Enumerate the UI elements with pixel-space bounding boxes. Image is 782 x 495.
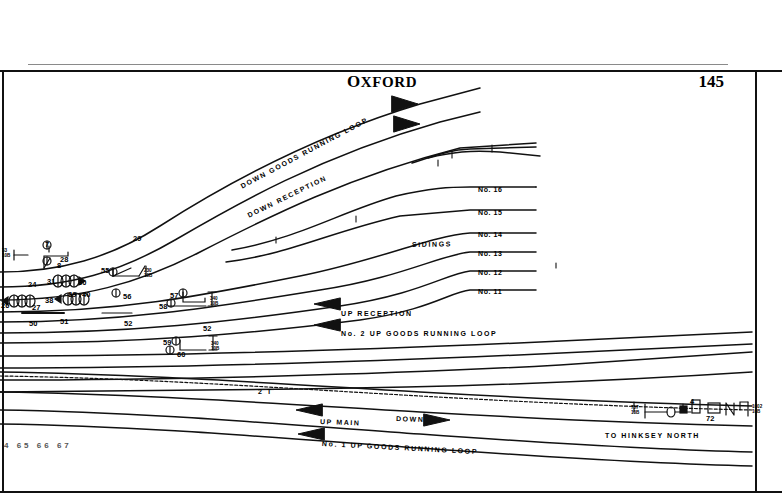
mileage-marker: 34010B bbox=[211, 341, 219, 351]
track-label-two-t: 2 T bbox=[258, 388, 273, 395]
mileage-marker-bottom: 10B bbox=[211, 346, 219, 351]
siding-number: No. 16 bbox=[478, 186, 503, 193]
point-number: 55 bbox=[101, 266, 109, 275]
point-number: 28 bbox=[60, 255, 68, 264]
point-number: 52 bbox=[124, 319, 132, 328]
siding-number: No. 12 bbox=[478, 269, 503, 276]
mileage-marker: 75710B bbox=[631, 405, 639, 415]
point-number: 72 bbox=[706, 414, 714, 423]
siding-number: No. 11 bbox=[478, 288, 502, 295]
mileage-marker-bottom: 10B bbox=[210, 301, 218, 306]
bottom-numbers: 4 65 66 67 bbox=[4, 441, 72, 450]
point-number: 50 bbox=[29, 319, 37, 328]
point-number: 31 bbox=[47, 277, 55, 286]
point-number: 26 bbox=[1, 301, 9, 310]
point-number: 59 bbox=[163, 338, 171, 347]
mileage-marker: 3310B bbox=[2, 248, 10, 258]
point-number: 27 bbox=[32, 303, 40, 312]
mileage-marker-bottom: 10B bbox=[631, 410, 639, 415]
point-number: 58 bbox=[159, 302, 167, 311]
siding-number: No. 15 bbox=[478, 209, 503, 216]
mileage-marker-bottom: 10B bbox=[144, 273, 152, 278]
track-label-up-main: UP MAIN bbox=[320, 418, 361, 426]
track-label-no2-up-goods-running-loop: No. 2 UP GOODS RUNNING LOOP bbox=[341, 330, 497, 337]
point-number: 60 bbox=[177, 350, 185, 359]
mileage-marker-bottom: 10B bbox=[2, 253, 10, 258]
point-number: 52 bbox=[203, 324, 211, 333]
mileage-marker: 34010B bbox=[210, 296, 218, 306]
point-number: 38 bbox=[45, 296, 53, 305]
point-number: 24 bbox=[28, 280, 36, 289]
mileage-marker: 23010B bbox=[144, 268, 152, 278]
point-number: 29 bbox=[133, 234, 141, 243]
point-number: 39 bbox=[68, 290, 76, 299]
point-number: 30 bbox=[78, 278, 86, 287]
point-number: 57 bbox=[170, 291, 178, 300]
track-label-up-reception: UP RECEPTION bbox=[341, 310, 413, 317]
point-number: 7 bbox=[45, 240, 49, 249]
track-diagram bbox=[0, 0, 782, 495]
point-number: 56 bbox=[123, 292, 131, 301]
point-number: 51 bbox=[60, 317, 68, 326]
point-number: 40 bbox=[82, 290, 90, 299]
mileage-marker-bottom: 10B bbox=[752, 409, 762, 414]
siding-number: No. 13 bbox=[478, 250, 503, 257]
track-label-sidings: SIDINGS bbox=[412, 240, 452, 248]
track-label-down: DOWN bbox=[396, 415, 425, 423]
track-label-to-hinksey-north: TO HINKSEY NORTH bbox=[605, 432, 700, 439]
point-number: 4 bbox=[690, 397, 694, 406]
page-root: OXFORD 145 bbox=[0, 0, 782, 495]
mileage-marker: 100210B bbox=[752, 404, 762, 414]
siding-number: No. 14 bbox=[478, 231, 503, 238]
